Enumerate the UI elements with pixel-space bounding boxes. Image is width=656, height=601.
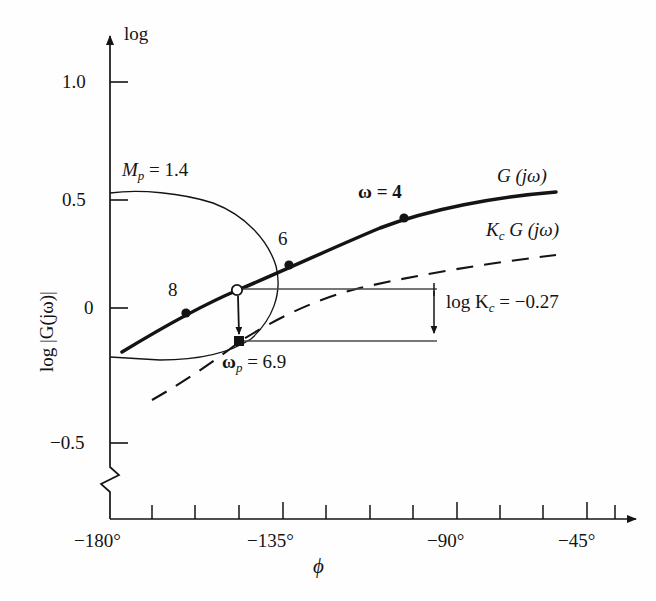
omega-p-value: = 6.9 [242,351,286,372]
g-curve [122,192,556,352]
g-curve-label: G (jω) [497,166,547,185]
x-tick-label-135: −135° [247,531,294,550]
marker-omega-4 [399,213,408,222]
marker-omega-8 [181,308,190,317]
mp-value: = 1.4 [144,159,188,180]
log-kc-symbol: log K [446,291,489,312]
y-axis-line [101,36,119,519]
marker-label-8: 8 [168,280,178,299]
omega-p-symbol: ω [222,351,236,372]
y-tick-label-4: −0.5 [50,433,84,452]
y-axis-ticks [110,82,128,443]
kc-symbol: K [486,219,499,240]
kc-rest: G (jω) [504,219,559,240]
marker-label-6: 6 [278,229,288,248]
y-axis-title: log |G(jω)| [36,291,58,372]
y-axis-top-label: log [124,24,148,43]
mp-symbol: M [122,159,138,180]
gain-drop-label: log Kc = −0.27 [446,292,559,314]
marker-omega-p-square [234,336,244,346]
marker-omega-p-open [232,285,242,295]
marker-label-omega-4: ω = 4 [358,182,402,201]
y-tick-label-1: 1.0 [62,72,86,91]
omega-p-label: ωp = 6.9 [222,352,286,374]
gain-measure-lines [237,283,437,341]
x-tick-label-45: −45° [558,531,595,550]
kc-g-curve-label: Kc G (jω) [486,220,559,242]
y-tick-label-3: 0 [84,298,94,317]
mp-contour-label: Mp = 1.4 [122,160,188,182]
kc-g-curve [152,255,556,400]
x-tick-label-90: −90° [427,531,464,550]
log-kc-value: = −0.27 [495,291,559,312]
x-axis-title: ϕ [313,556,324,577]
mp-contour-curve [110,191,278,360]
x-axis-ticks [152,502,615,519]
x-tick-label-180: −180° [74,531,121,550]
y-axis [101,36,128,519]
y-tick-label-2: 0.5 [62,190,86,209]
x-axis [110,502,636,519]
nichols-chart-figure: log 1.0 0.5 0 −0.5 log |G(jω)| −180° −13… [0,0,656,601]
omega-p-drop-arrow [238,296,239,334]
marker-omega-6 [284,260,293,269]
